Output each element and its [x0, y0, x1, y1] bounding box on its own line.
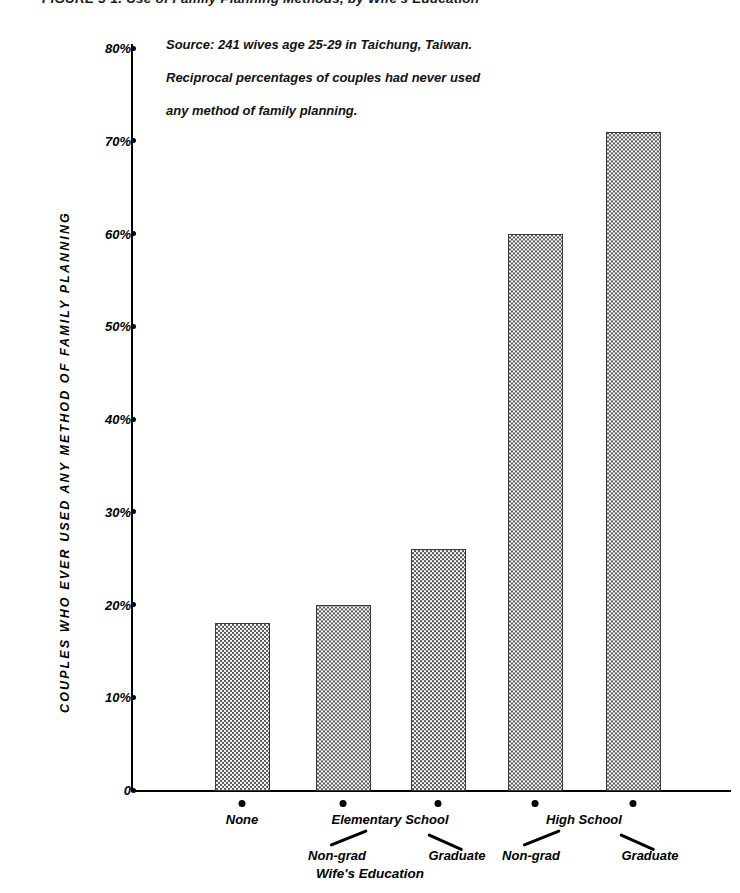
x-group-label-elementary-school: Elementary School: [331, 812, 448, 827]
y-tick-label-80: 80%: [105, 41, 131, 56]
y-tick-dot-50: [131, 324, 136, 329]
y-tick-dot-60: [131, 231, 136, 236]
y-tick-label-70: 70%: [105, 133, 131, 148]
y-tick-label-20: 20%: [105, 597, 131, 612]
source-note-line-3: any method of family planning.: [166, 94, 480, 127]
x-axis-title: Wife's Education: [0, 866, 740, 881]
x-group-label-none: None: [226, 812, 259, 827]
source-note-line-2: Reciprocal percentages of couples had ne…: [166, 61, 480, 94]
x-tick-dot-3: [435, 800, 442, 807]
x-tick-dot-1: [239, 800, 246, 807]
y-tick-label-30: 30%: [105, 504, 131, 519]
plot-area: 80% 70% 60% 50% 40% 30% 20% 10%: [0, 0, 740, 893]
source-note-line-1: Source: 241 wives age 25-29 in Taichung,…: [166, 28, 480, 61]
x-tick-dot-5: [630, 800, 637, 807]
x-sub-label-elementary-graduate: Graduate: [428, 848, 485, 863]
source-note: Source: 241 wives age 25-29 in Taichung,…: [166, 28, 480, 127]
y-tick-dot-30: [131, 509, 136, 514]
y-tick-label-40: 40%: [105, 412, 131, 427]
y-tick-label-0: 0: [124, 783, 131, 798]
x-tick-dot-2: [340, 800, 347, 807]
bar-elementary-graduate: [411, 549, 466, 791]
y-tick-dot-10: [131, 695, 136, 700]
y-tick-dot-80: [131, 46, 136, 51]
leader-high-school-non-grad: [523, 829, 561, 846]
bar-high-school-non-grad: [508, 234, 563, 792]
y-axis-title: COUPLES WHO EVER USED ANY METHOD OF FAMI…: [58, 112, 72, 812]
y-tick-dot-40: [131, 417, 136, 422]
figure-container: FIGURE 3-1. Use of Family Planning Metho…: [0, 0, 740, 893]
y-tick-label-10: 10%: [105, 690, 131, 705]
y-tick-dot-70: [131, 138, 136, 143]
x-sub-label-elementary-non-grad: Non-grad: [308, 848, 366, 863]
y-tick-dot-20: [131, 602, 136, 607]
y-tick-label-50: 50%: [105, 319, 131, 334]
x-group-label-high-school: High School: [546, 812, 622, 827]
x-sub-label-high-school-non-grad: Non-grad: [502, 848, 560, 863]
x-sub-label-high-school-graduate: Graduate: [621, 848, 678, 863]
bar-none: [215, 623, 270, 791]
y-tick-dot-0: [131, 788, 136, 793]
bar-elementary-non-grad: [316, 605, 371, 792]
y-tick-label-60: 60%: [105, 226, 131, 241]
bar-high-school-graduate: [606, 132, 661, 792]
x-tick-dot-4: [532, 800, 539, 807]
leader-elementary-non-grad: [330, 829, 368, 846]
